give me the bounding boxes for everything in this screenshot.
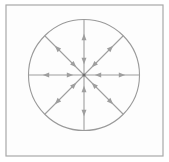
origin-dot (82, 73, 85, 76)
vector-field-diagram (0, 0, 169, 162)
figure-container: Radial vector field inside a circle (0, 0, 169, 162)
